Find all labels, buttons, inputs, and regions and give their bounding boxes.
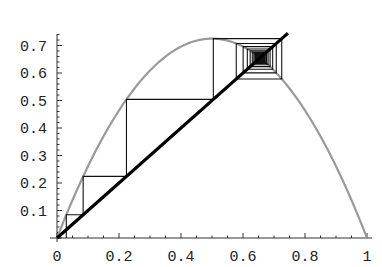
tick-labels: 00.20.40.60.810.10.20.30.40.50.60.7: [20, 39, 372, 267]
x-tick-label: 0.8: [291, 249, 318, 266]
y-tick-label: 0.2: [20, 176, 47, 193]
y-tick-label: 0.4: [20, 121, 47, 138]
y-tick-label: 0.1: [20, 204, 47, 221]
y-tick-label: 0.5: [20, 94, 47, 111]
x-tick-label: 1: [362, 249, 371, 266]
logistic-curve: [57, 39, 367, 238]
y-tick-label: 0.3: [20, 149, 47, 166]
y-tick-label: 0.7: [20, 39, 47, 56]
x-tick-label: 0.4: [167, 249, 194, 266]
diagonal-line: [57, 33, 288, 238]
axes: [50, 34, 372, 242]
x-tick-label: 0: [52, 249, 61, 266]
x-tick-label: 0.6: [229, 249, 256, 266]
x-tick-label: 0.2: [105, 249, 132, 266]
y-tick-label: 0.6: [20, 66, 47, 83]
cobweb-chart: 00.20.40.60.810.10.20.30.40.50.60.7: [0, 0, 382, 267]
